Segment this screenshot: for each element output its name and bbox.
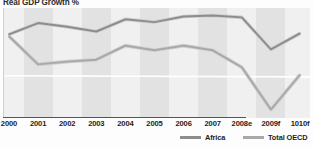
x-tick-label: 2005 [146,119,162,128]
legend-label: Africa [205,133,225,142]
series-line-total-oecd [9,36,300,109]
legend-item-total-oecd[interactable]: Total OECD [243,133,308,142]
chart-title: Real GDP Growth % [3,0,79,7]
x-tick-label: 2009f [262,119,281,128]
chart-container: Real GDP Growth % 2000200120022003200420… [0,0,313,147]
legend-swatch-icon [243,136,264,139]
x-tick-label: 2002 [59,119,75,128]
legend-label: Total OECD [268,133,308,142]
legend-swatch-icon [180,136,201,139]
series-lines [3,8,310,118]
plot-area [3,8,310,118]
x-tick-label: 2000 [1,119,17,128]
x-tick-label: 2003 [88,119,104,128]
y-axis-line [3,8,4,118]
x-tick-label: 2004 [117,119,133,128]
x-tick-label: 2008e [232,119,252,128]
chart-legend: AfricaTotal OECD [0,133,313,146]
legend-item-africa[interactable]: Africa [180,133,225,142]
series-line-halo-total-oecd [9,36,300,109]
x-tick-label: 2006 [175,119,191,128]
x-tick-label: 1010f [291,119,310,128]
x-tick-label: 2001 [30,119,46,128]
x-axis-tick-labels: 200020012002200320042005200620072008e200… [0,119,313,131]
x-tick-label: 2007 [205,119,221,128]
